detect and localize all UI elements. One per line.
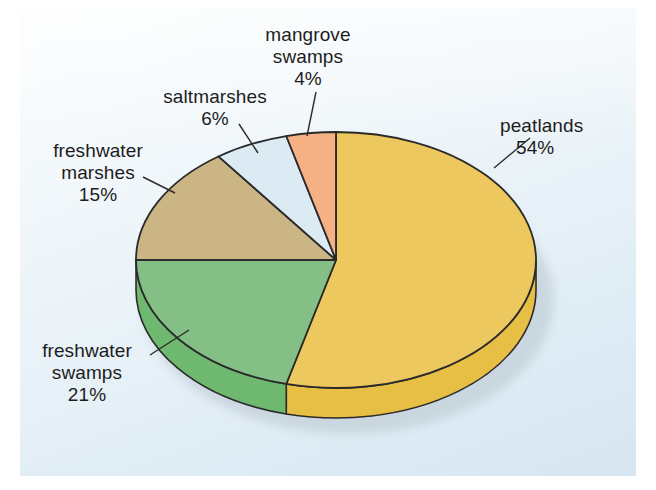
- label-saltmarshes-name: saltmarshes: [145, 86, 285, 108]
- leader-line-mangrove-swamps: [307, 92, 316, 136]
- label-peatlands: peatlands 54%: [500, 115, 583, 159]
- label-freshwater-marshes-line1: freshwater: [28, 140, 168, 162]
- label-mangrove-swamps-line1: mangrove: [248, 24, 368, 46]
- label-freshwater-marshes-value: 15%: [28, 184, 168, 206]
- label-freshwater-marshes: freshwater marshes 15%: [28, 140, 168, 206]
- label-freshwater-swamps-value: 21%: [12, 384, 162, 406]
- label-saltmarshes-value: 6%: [145, 108, 285, 130]
- label-peatlands-value: 54%: [500, 137, 583, 159]
- label-mangrove-swamps-line2: swamps: [248, 46, 368, 68]
- label-freshwater-swamps-line2: swamps: [12, 362, 162, 384]
- label-saltmarshes: saltmarshes 6%: [145, 86, 285, 130]
- pie-chart-figure: peatlands 54% mangrove swamps 4% saltmar…: [0, 0, 656, 490]
- label-peatlands-name: peatlands: [500, 115, 583, 137]
- label-freshwater-swamps-line1: freshwater: [12, 340, 162, 362]
- label-mangrove-swamps: mangrove swamps 4%: [248, 24, 368, 90]
- label-freshwater-swamps: freshwater swamps 21%: [12, 340, 162, 406]
- label-freshwater-marshes-line2: marshes: [28, 162, 168, 184]
